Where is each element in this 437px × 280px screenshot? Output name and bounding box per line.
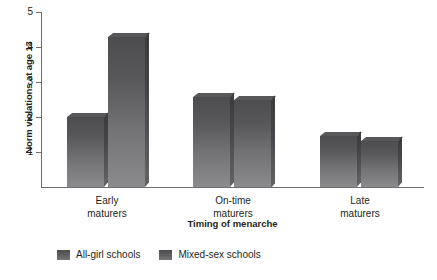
bar-side-face [398,136,402,187]
bar-face [108,37,145,187]
x-category-label-on-time: On-time maturers [173,195,293,220]
y-axis-line [41,12,42,188]
legend-label: All-girl schools [76,249,140,260]
y-tick-3: 3 [36,82,41,83]
bar-late-all-girl [320,136,357,187]
bar-face [361,141,398,187]
bar-face [193,97,230,187]
bar-top-face [67,113,109,117]
y-tick-label-5: 5 [27,5,33,18]
bar-on-time-all-girl [193,97,230,187]
bar-side-face [145,32,149,187]
y-tick-label-3: 3 [27,75,33,88]
plot-area: 5 4 3 2 1 [41,12,424,187]
bar-side-face [271,95,275,187]
legend-item-mixed-sex-schools: Mixed-sex schools [159,249,260,260]
bar-face [67,117,104,187]
x-category-label-late: Late maturers [300,195,420,220]
bar-top-face [193,93,235,97]
bar-top-face [108,33,150,37]
bar-early-mixed-sex [108,37,145,187]
legend-swatch-icon [159,250,172,260]
y-axis-title: Norm violations at age 13 [23,8,34,188]
bar-top-face [361,137,403,141]
bar-top-face [234,96,276,100]
legend-label: Mixed-sex schools [178,249,260,260]
y-tick-label-2: 2 [27,110,33,123]
bar-chart-figure: Norm violations at age 13 5 4 3 2 1 [0,0,437,280]
x-axis-line [41,187,424,188]
y-tick-1: 1 [36,152,41,153]
y-tick-5: 5 [36,12,41,13]
chart-legend: All-girl schools Mixed-sex schools [57,249,261,260]
x-category-label-line-1: Early [47,195,167,208]
legend-swatch-icon [57,250,70,260]
x-category-label-line-1: Late [300,195,420,208]
y-tick-label-1: 1 [27,145,33,158]
bar-late-mixed-sex [361,141,398,187]
bar-early-all-girl [67,117,104,187]
bar-face [234,100,271,188]
y-tick-4: 4 [36,47,41,48]
bar-face [320,136,357,187]
bar-on-time-mixed-sex [234,100,271,188]
y-tick-2: 2 [36,117,41,118]
bar-top-face [320,132,362,136]
x-category-label-early: Early maturers [47,195,167,220]
x-axis-title: Timing of menarche [41,218,424,229]
y-tick-label-4: 4 [27,40,33,53]
legend-item-all-girl-schools: All-girl schools [57,249,140,260]
x-category-label-line-1: On-time [173,195,293,208]
